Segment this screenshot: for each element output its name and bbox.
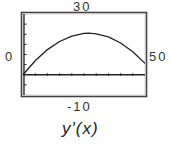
ymin-label: -10 — [67, 100, 92, 113]
ymax-label: 30 — [73, 0, 91, 13]
xmax-label: 50 — [149, 50, 167, 63]
xmin-label: 0 — [5, 50, 14, 63]
plot-frame — [22, 13, 147, 97]
series-curve — [23, 33, 145, 75]
chart-caption: y'(x) — [62, 120, 99, 137]
